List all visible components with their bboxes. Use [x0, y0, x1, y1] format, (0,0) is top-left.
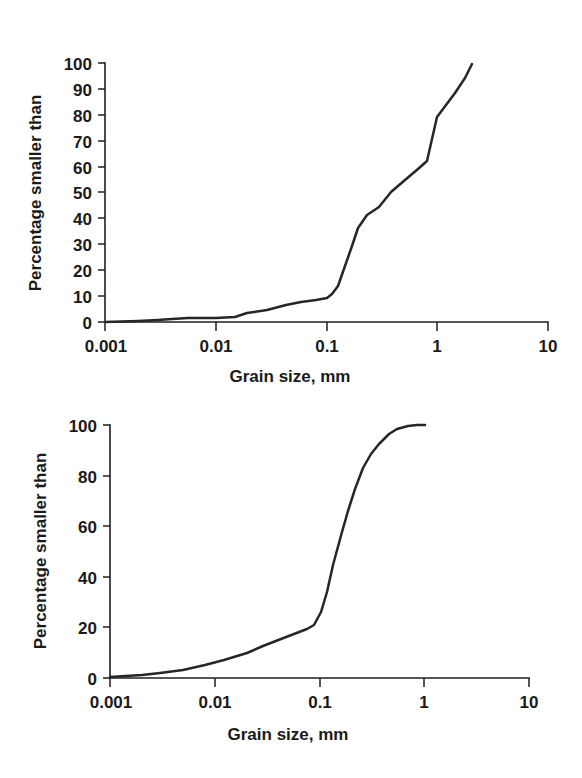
y-tick-label-100: 100 [64, 55, 92, 74]
x-tick-label-001: 0.01 [199, 337, 232, 356]
plot-area-top: 0 10 20 30 40 50 60 70 80 90 100 0.001 0… [0, 0, 582, 390]
y-tick-label-90: 90 [73, 81, 92, 100]
plot-area-bottom: 0 20 40 60 80 100 0.001 0.01 0.1 1 10 Gr… [0, 390, 582, 778]
x-ticks-bottom [110, 678, 529, 687]
x-ticks-top [105, 322, 548, 331]
x-tick-label-b-0001: 0.001 [90, 693, 133, 712]
y-tick-label-b-100: 100 [69, 417, 97, 436]
y-tick-label-0: 0 [83, 314, 92, 333]
y-tick-label-60: 60 [73, 159, 92, 178]
y-tick-label-40: 40 [73, 210, 92, 229]
data-curve-bottom [110, 425, 425, 677]
x-tick-label-b-10: 10 [520, 693, 539, 712]
x-tick-label-01: 0.1 [315, 337, 339, 356]
y-tick-label-80: 80 [73, 107, 92, 126]
grading-curve-chart-bottom: 0 20 40 60 80 100 0.001 0.01 0.1 1 10 Gr… [0, 390, 582, 778]
y-tick-label-50: 50 [73, 184, 92, 203]
y-tick-label-70: 70 [73, 133, 92, 152]
x-axis-title-bottom: Grain size, mm [228, 725, 349, 744]
y-tick-label-20: 20 [73, 262, 92, 281]
y-tick-label-b-20: 20 [78, 619, 97, 638]
y-tick-label-b-60: 60 [78, 518, 97, 537]
y-ticks-bottom [103, 425, 110, 678]
y-tick-label-b-40: 40 [78, 569, 97, 588]
x-tick-label-b-1: 1 [419, 693, 428, 712]
y-axis-title-bottom: Percentage smaller than [31, 453, 50, 650]
x-tick-label-10: 10 [539, 337, 558, 356]
y-tick-label-b-0: 0 [88, 670, 97, 689]
grading-curve-chart-top: 0 10 20 30 40 50 60 70 80 90 100 0.001 0… [0, 0, 582, 390]
data-curve-top [105, 64, 472, 322]
x-tick-label-1: 1 [432, 337, 441, 356]
x-tick-label-b-001: 0.01 [198, 693, 231, 712]
y-axis-title-top: Percentage smaller than [26, 95, 45, 292]
y-ticks-top [98, 63, 105, 322]
y-tick-label-b-80: 80 [78, 468, 97, 487]
x-tick-label-b-01: 0.1 [308, 693, 332, 712]
y-tick-label-10: 10 [73, 288, 92, 307]
x-axis-title-top: Grain size, mm [230, 367, 351, 386]
y-tick-label-30: 30 [73, 236, 92, 255]
x-tick-label-0001: 0.001 [85, 337, 128, 356]
